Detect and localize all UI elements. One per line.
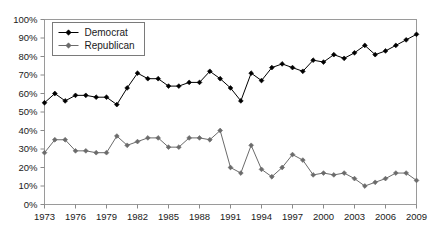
x-tick-label: 1973 <box>34 211 55 222</box>
data-point-marker <box>290 65 295 70</box>
y-tick-label: 70% <box>18 69 38 80</box>
x-tick-label: 1979 <box>96 211 117 222</box>
y-tick-label: 0% <box>24 199 38 210</box>
data-point-marker <box>145 136 150 141</box>
y-tick-label: 80% <box>18 51 38 62</box>
data-point-marker <box>176 84 181 89</box>
y-axis: 0%10%20%30%40%50%60%70%80%90%100% <box>13 14 44 210</box>
data-point-marker <box>249 143 254 148</box>
data-point-marker <box>187 80 192 85</box>
y-tick-label: 90% <box>18 32 38 43</box>
x-tick-label: 2000 <box>313 211 334 222</box>
data-point-marker <box>393 43 398 48</box>
x-tick-label: 1976 <box>65 211 86 222</box>
data-point-marker <box>321 171 326 176</box>
data-point-marker <box>104 150 109 155</box>
data-point-marker <box>135 139 140 144</box>
data-point-marker <box>383 176 388 181</box>
x-tick-label: 1985 <box>158 211 179 222</box>
y-tick-label: 10% <box>18 180 38 191</box>
data-point-marker <box>94 150 99 155</box>
data-point-marker <box>393 171 398 176</box>
legend: DemocratRepublican <box>53 23 145 56</box>
data-point-marker <box>280 62 285 67</box>
data-point-marker <box>238 171 243 176</box>
x-tick-label: 2009 <box>406 211 427 222</box>
line-chart: 0%10%20%30%40%50%60%70%80%90%100%1973197… <box>0 0 432 239</box>
x-tick-label: 2003 <box>344 211 365 222</box>
x-tick-label: 2006 <box>375 211 396 222</box>
legend-label: Republican <box>85 40 135 51</box>
legend-label: Democrat <box>85 27 129 38</box>
data-point-marker <box>197 136 202 141</box>
y-tick-label: 100% <box>13 14 38 25</box>
data-point-marker <box>228 165 233 170</box>
y-tick-label: 30% <box>18 143 38 154</box>
data-point-marker <box>342 56 347 61</box>
x-tick-label: 1994 <box>251 211 272 222</box>
y-tick-label: 40% <box>18 125 38 136</box>
x-tick-label: 1991 <box>220 211 241 222</box>
data-point-marker <box>73 93 78 98</box>
data-point-marker <box>94 95 99 100</box>
data-point-marker <box>145 76 150 81</box>
data-point-marker <box>373 180 378 185</box>
data-point-marker <box>383 49 388 54</box>
x-axis: 1973197619791982198519881991199419972000… <box>34 205 427 222</box>
y-tick-label: 50% <box>18 106 38 117</box>
data-point-marker <box>342 171 347 176</box>
data-point-marker <box>83 93 88 98</box>
data-point-marker <box>404 37 409 42</box>
x-tick-label: 1988 <box>189 211 210 222</box>
x-tick-label: 1997 <box>282 211 303 222</box>
series-republican <box>42 128 419 188</box>
series-line <box>45 131 417 187</box>
data-point-marker <box>331 173 336 178</box>
data-point-marker <box>414 32 419 37</box>
data-point-marker <box>83 148 88 153</box>
y-tick-label: 60% <box>18 88 38 99</box>
chart-canvas: 0%10%20%30%40%50%60%70%80%90%100%1973197… <box>0 0 432 239</box>
y-tick-label: 20% <box>18 162 38 173</box>
x-tick-label: 1982 <box>127 211 148 222</box>
